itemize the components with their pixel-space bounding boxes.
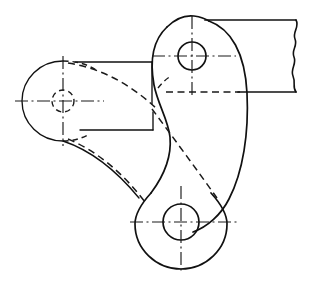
left-boss-bottom-hidden-arc <box>63 135 88 141</box>
technical-drawing-canvas: Bell Crank Lever — Orthographic View fro… <box>0 0 321 282</box>
break-line-icon <box>292 20 297 92</box>
top-boss-hidden-arc <box>158 76 171 88</box>
drawing-svg <box>0 0 321 282</box>
body-hidden-edges <box>152 76 240 198</box>
body-hidden-diagonal-curve <box>152 109 217 198</box>
left-arm-hidden-edges <box>68 63 158 202</box>
body-inner-s-contour <box>151 27 170 193</box>
center-lines-group <box>15 16 238 273</box>
top-boss-group <box>167 16 209 70</box>
left-arm-lower-visible-curve <box>63 141 139 198</box>
top-boss-outer-arc <box>167 16 209 27</box>
body-outer-right-contour <box>193 21 247 232</box>
left-arm-upper-hidden-curve <box>68 63 158 110</box>
